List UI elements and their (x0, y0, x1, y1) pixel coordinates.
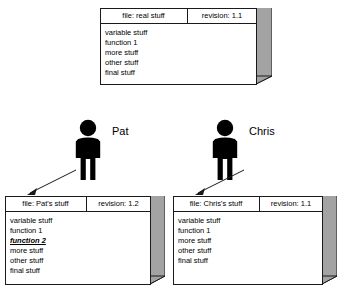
pat-line: function 1 (10, 226, 151, 236)
pat-revision-label: revision: 1.2 (87, 196, 150, 211)
pat-line-modified: function 2 (10, 236, 151, 246)
pat-line: more stuff (10, 246, 151, 256)
repository-box-body: variable stuff function 1 more stuff oth… (100, 24, 257, 85)
chris-revision-label: revision: 1.1 (260, 196, 322, 211)
pat-checkout-arrow (20, 168, 80, 198)
pat-line: other stuff (10, 256, 151, 266)
chris-line: function 1 (178, 226, 323, 236)
pat-file-label: file: Pat's stuff (5, 196, 87, 211)
chris-line: more stuff (178, 236, 323, 246)
chris-box-header: file: Chris's stuff revision: 1.1 (173, 196, 323, 212)
chris-box-body: variable stuff function 1 more stuff oth… (173, 212, 323, 285)
pat-file-box: file: Pat's stuff revision: 1.2 variable… (5, 196, 165, 290)
pat-box-header: file: Pat's stuff revision: 1.2 (5, 196, 151, 212)
repository-line: final stuff (105, 68, 257, 78)
repository-line: other stuff (105, 58, 257, 68)
chris-file-box: file: Chris's stuff revision: 1.1 variab… (173, 196, 337, 290)
pat-line: variable stuff (10, 216, 151, 226)
pat-person-label: Pat (112, 126, 129, 137)
repository-box-header: file: real stuff revision: 1.1 (100, 8, 257, 24)
chris-person-label: Chris (249, 126, 275, 137)
diagram-canvas: file: real stuff revision: 1.1 variable … (0, 0, 342, 296)
chris-checkout-arrow (188, 168, 248, 198)
repository-line: more stuff (105, 48, 257, 58)
pat-line: final stuff (10, 266, 151, 276)
chris-line: final stuff (178, 256, 323, 266)
pat-box-body: variable stuff function 1 function 2 mor… (5, 212, 151, 285)
repository-line: variable stuff (105, 28, 257, 38)
repository-line: function 1 (105, 38, 257, 48)
chris-line: other stuff (178, 246, 323, 256)
repository-file-label: file: real stuff (100, 8, 188, 23)
repository-file-box: file: real stuff revision: 1.1 variable … (100, 8, 272, 92)
repository-revision-label: revision: 1.1 (188, 8, 256, 23)
chris-line: variable stuff (178, 216, 323, 226)
chris-file-label: file: Chris's stuff (173, 196, 260, 211)
